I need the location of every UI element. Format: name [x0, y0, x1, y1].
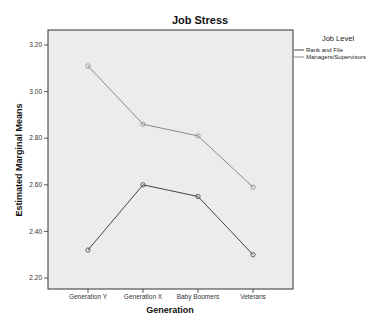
- y-tick-label: 2.40: [29, 228, 42, 235]
- x-axis: Generation YGeneration XBaby BoomersVete…: [69, 289, 267, 301]
- line-chart: Job Stress 2.202.402.602.803.003.20 Gene…: [0, 0, 387, 328]
- chart-title: Job Stress: [172, 14, 228, 26]
- plot-area: [48, 30, 293, 289]
- y-tick-label: 3.00: [29, 88, 42, 95]
- y-axis: 2.202.402.602.803.003.20: [29, 41, 48, 281]
- x-tick-label: Baby Boomers: [177, 293, 220, 301]
- y-tick-label: 2.80: [29, 134, 42, 141]
- legend-item-label: Managers/Supervisors: [306, 54, 366, 60]
- y-tick-label: 2.20: [29, 274, 42, 281]
- y-tick-label: 3.20: [29, 41, 42, 48]
- legend-title: Job Level: [322, 34, 354, 43]
- x-axis-label: Generation: [146, 305, 194, 315]
- x-tick-label: Veterans: [240, 293, 266, 300]
- x-tick-label: Generation X: [124, 293, 163, 300]
- x-tick-label: Generation Y: [69, 293, 108, 300]
- legend-item-label: Rank and File: [306, 47, 344, 53]
- legend: Job Level Rank and FileManagers/Supervis…: [294, 34, 366, 60]
- y-axis-label: Estimated Marginal Means: [14, 103, 24, 216]
- y-tick-label: 2.60: [29, 181, 42, 188]
